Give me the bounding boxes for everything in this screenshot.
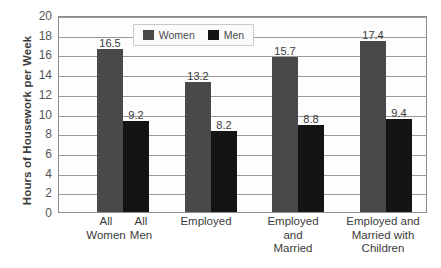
bar-men-group-1: [211, 131, 237, 212]
y-tick-label: 10: [24, 109, 52, 121]
bar-value-label: 8.2: [205, 120, 243, 131]
legend-swatch-icon: [208, 30, 219, 40]
legend-label: Women: [159, 30, 195, 41]
y-tick-label: 0: [24, 207, 52, 219]
x-axis-label: Employed: [158, 215, 254, 229]
y-axis-tick-labels: 02468101214161820: [24, 0, 52, 268]
y-tick-label: 20: [24, 10, 52, 22]
bar-men-group-3: [386, 119, 412, 212]
legend-label: Men: [224, 30, 244, 41]
y-tick-label: 4: [24, 168, 52, 180]
y-tick-label: 14: [24, 69, 52, 81]
bar-value-label: 9.4: [380, 108, 418, 119]
bar-value-label: 16.5: [91, 38, 129, 49]
bar-women-group-1: [185, 82, 211, 212]
gridline: [59, 17, 426, 18]
x-axis-label: Employed and Married: [245, 215, 341, 256]
y-tick-label: 18: [24, 30, 52, 42]
legend-swatch-icon: [143, 30, 154, 40]
bar-women-group-3: [360, 41, 386, 212]
bar-value-label: 13.2: [179, 71, 217, 82]
bar-value-label: 9.2: [117, 110, 155, 121]
y-tick-label: 8: [24, 128, 52, 140]
bar-men-group-2: [298, 125, 324, 212]
x-axis-label: Employed and Married with Children: [335, 215, 431, 256]
y-tick-label: 16: [24, 49, 52, 61]
bar-chart: Hours of Housework per Week 024681012141…: [0, 0, 441, 268]
bar-value-label: 8.8: [292, 114, 330, 125]
y-tick-label: 2: [24, 187, 52, 199]
bar-men-group-0: [123, 121, 149, 212]
legend-item-women: Women: [143, 30, 195, 41]
legend-item-men: Men: [208, 30, 244, 41]
chart-legend: WomenMen: [133, 24, 254, 46]
x-axis-tick-labels: All WomenAll MenEmployedEmployed and Mar…: [58, 215, 427, 265]
y-tick-label: 12: [24, 89, 52, 101]
y-tick-label: 6: [24, 148, 52, 160]
bar-value-label: 15.7: [266, 46, 304, 57]
bar-women-group-0: [97, 49, 123, 212]
bar-women-group-2: [272, 57, 298, 212]
bar-value-label: 17.4: [354, 30, 392, 41]
